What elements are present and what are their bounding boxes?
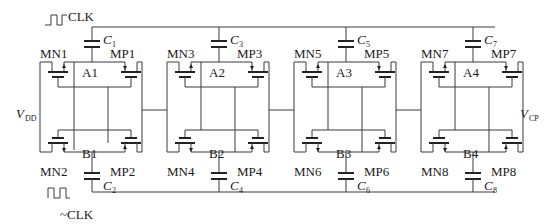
vdd-label: V DD	[16, 106, 37, 123]
mn7-label: MN7	[421, 46, 449, 61]
mn2-label: MN2	[40, 164, 67, 179]
mp1-label: MP1	[110, 46, 135, 61]
mp5-label: MP5	[364, 46, 389, 61]
node-a3-label: A3	[336, 65, 352, 80]
circuit-diagram: CLK ~CLK V DD V CP C 1 MN1 MP1 A1	[0, 0, 551, 224]
node-b2-label: B2	[209, 146, 224, 161]
svg-text:C: C	[230, 32, 239, 47]
svg-text:C: C	[484, 32, 493, 47]
svg-text:C: C	[103, 32, 112, 47]
charge-pump-schematic: CLK ~CLK V DD V CP C 1 MN1 MP1 A1	[0, 0, 551, 224]
mp3-label: MP3	[237, 46, 262, 61]
stage-3: C 5 MN5 MP5 A3	[294, 27, 396, 195]
node-a4-label: A4	[463, 65, 479, 80]
stage-4: C 7 MN7 MP7 A4	[421, 27, 523, 195]
svg-text:C: C	[103, 178, 112, 193]
svg-text:4: 4	[239, 186, 243, 195]
svg-text:DD: DD	[25, 114, 37, 123]
svg-text:C: C	[484, 178, 493, 193]
mn4-label: MN4	[167, 164, 195, 179]
nclk-waveform-icon	[48, 188, 70, 198]
mn1-label: MN1	[40, 46, 67, 61]
clk-waveform-icon	[45, 15, 67, 25]
node-a2-label: A2	[209, 65, 225, 80]
clk-label: CLK	[68, 9, 95, 24]
svg-text:C: C	[357, 178, 366, 193]
stage-2: C 3 MN3 MP3 A2	[167, 27, 269, 195]
mp4-label: MP4	[237, 164, 263, 179]
node-b3-label: B3	[336, 146, 351, 161]
svg-text:C: C	[230, 178, 239, 193]
mp7-label: MP7	[491, 46, 517, 61]
mp2-label: MP2	[110, 164, 135, 179]
svg-text:C: C	[357, 32, 366, 47]
nclk-label: ~CLK	[60, 207, 94, 222]
svg-text:CP: CP	[529, 114, 539, 123]
mn6-label: MN6	[294, 164, 322, 179]
mp8-label: MP8	[491, 164, 516, 179]
node-a1-label: A1	[82, 65, 98, 80]
stage-1: C 1 MN1 MP1 A1	[40, 27, 142, 195]
node-b1-label: B1	[82, 146, 97, 161]
svg-text:2: 2	[112, 186, 116, 195]
mn8-label: MN8	[421, 164, 448, 179]
svg-text:8: 8	[493, 186, 497, 195]
svg-text:6: 6	[366, 186, 370, 195]
mn3-label: MN3	[167, 46, 194, 61]
mp6-label: MP6	[364, 164, 390, 179]
mn5-label: MN5	[294, 46, 321, 61]
node-b4-label: B4	[463, 146, 479, 161]
